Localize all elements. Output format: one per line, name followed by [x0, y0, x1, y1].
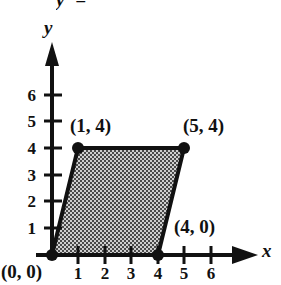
parallelogram-path — [52, 148, 184, 255]
y-axis-label: y — [44, 17, 52, 39]
vertex-dot-top-right — [178, 142, 190, 154]
x-tick-label-5: 5 — [174, 264, 194, 284]
y-axis-arrow-icon — [45, 42, 59, 66]
point-label-bottom-right: (4, 0) — [174, 216, 215, 238]
figure-canvas: y = — [0, 0, 281, 285]
point-label-top-left: (1, 4) — [70, 115, 111, 137]
y-tick-label-5: 5 — [16, 112, 36, 132]
y-tick-label-1: 1 — [16, 219, 36, 239]
vertex-dot-origin — [46, 249, 58, 261]
point-label-origin: (0, 0) — [1, 261, 42, 283]
shaded-parallelogram — [52, 148, 184, 255]
x-tick-label-2: 2 — [95, 264, 115, 284]
x-axis-label: x — [262, 240, 272, 262]
y-tick-label-3: 3 — [16, 166, 36, 186]
x-tick-label-3: 3 — [121, 264, 141, 284]
vertex-dot-bottom-right — [152, 249, 164, 261]
y-tick-label-2: 2 — [16, 192, 36, 212]
x-tick-label-4: 4 — [148, 264, 168, 284]
coordinate-plane-graphic — [0, 0, 281, 285]
point-label-top-right: (5, 4) — [183, 115, 224, 137]
y-tick-label-4: 4 — [16, 139, 36, 159]
x-axis-arrow-icon — [232, 246, 258, 264]
x-tick-label-1: 1 — [68, 264, 88, 284]
x-tick-label-6: 6 — [201, 264, 221, 284]
vertex-dot-top-left — [72, 142, 84, 154]
y-tick-label-6: 6 — [16, 86, 36, 106]
